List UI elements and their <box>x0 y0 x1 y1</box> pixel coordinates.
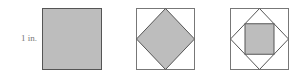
nested-squares-diagram <box>0 0 302 75</box>
figure-1-square <box>43 9 102 70</box>
figure-2-square-with-diamond <box>137 9 195 70</box>
figure-3-square-diamond-inner-square <box>231 9 289 70</box>
